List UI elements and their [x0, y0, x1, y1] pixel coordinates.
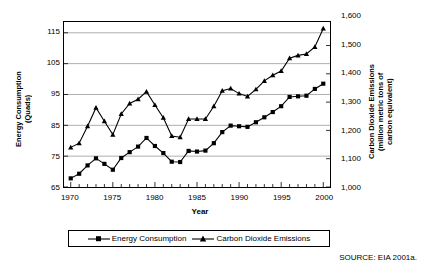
legend-triangle-marker-icon: [192, 234, 214, 244]
chart-legend: Energy ConsumptionCarbon Dioxide Emissio…: [68, 230, 330, 247]
data-point-marker: [312, 44, 317, 49]
y-axis-left-ticklabel: 95: [32, 90, 60, 98]
x-axis-ticklabel: 1985: [182, 193, 212, 202]
legend-item-label: Energy Consumption: [112, 234, 187, 243]
data-point-marker: [136, 145, 140, 149]
data-point-marker: [111, 168, 115, 172]
data-point-marker: [85, 163, 89, 167]
data-point-marker: [144, 89, 149, 94]
data-point-marker: [203, 149, 207, 153]
y-axis-left-ticklabel: 65: [32, 184, 60, 192]
data-point-marker: [102, 162, 106, 166]
y-axis-left-ticklabel: 85: [32, 122, 60, 130]
legend-item[interactable]: Energy Consumption: [88, 234, 187, 244]
data-point-marker: [236, 91, 241, 96]
legend-item-label: Carbon Dioxide Emissions: [216, 234, 310, 243]
plot-svg: [64, 22, 330, 187]
data-point-marker: [77, 140, 82, 145]
legend-item[interactable]: Carbon Dioxide Emissions: [192, 234, 310, 244]
source-note: SOURCE: EIA 2001a.: [0, 253, 417, 262]
y-axis-right-ticklabel: 1,600: [341, 12, 371, 20]
data-point-marker: [77, 172, 81, 176]
data-point-marker: [245, 125, 249, 129]
data-point-marker: [128, 150, 132, 154]
data-point-marker: [94, 156, 98, 160]
data-point-marker: [153, 144, 157, 148]
x-axis-title: Year: [120, 207, 280, 216]
data-point-marker: [288, 95, 292, 99]
series-line-square: [71, 84, 324, 179]
data-point-marker: [313, 87, 317, 91]
data-point-marker: [237, 124, 241, 128]
data-point-marker: [296, 94, 300, 98]
data-point-marker: [170, 160, 174, 164]
data-point-marker: [321, 26, 326, 31]
data-point-marker: [211, 104, 216, 109]
data-point-marker: [119, 156, 123, 160]
data-point-marker: [321, 82, 325, 86]
x-axis-ticklabel: 1995: [267, 193, 297, 202]
y-axis-left-ticklabel: 105: [32, 59, 60, 67]
data-point-marker: [85, 123, 90, 128]
data-point-marker: [254, 120, 258, 124]
x-axis-ticklabel: 1975: [97, 193, 127, 202]
x-axis-ticklabel: 2000: [309, 193, 339, 202]
legend-square-marker-icon: [88, 234, 110, 244]
plot-area: [63, 21, 331, 188]
data-point-marker: [212, 141, 216, 145]
data-point-marker: [304, 94, 308, 98]
x-axis-ticklabel: 1980: [140, 193, 170, 202]
data-point-marker: [178, 160, 182, 164]
data-point-marker: [186, 149, 190, 153]
y-axis-left-ticklabel: 75: [32, 153, 60, 161]
data-point-marker: [220, 130, 224, 134]
x-axis-ticklabel: 1990: [224, 193, 254, 202]
y-axis-left-ticklabels: 65758595105115: [32, 0, 60, 272]
data-point-marker: [195, 149, 199, 153]
data-point-marker: [279, 104, 283, 108]
x-axis-ticklabel: 1970: [55, 193, 85, 202]
data-point-marker: [228, 86, 233, 91]
y-axis-left-ticklabel: 115: [32, 28, 60, 36]
y-axis-right-title: Carbon Dioxide Emissions (million metric…: [367, 24, 401, 199]
data-point-marker: [262, 115, 266, 119]
data-point-marker: [169, 133, 174, 138]
data-point-marker: [271, 110, 275, 114]
data-point-marker: [93, 105, 98, 110]
series-line-triangle: [71, 29, 324, 148]
data-point-marker: [161, 151, 165, 155]
chart-figure: Energy Consumption (Quads) 6575859510511…: [0, 0, 423, 272]
data-point-marker: [144, 136, 148, 140]
data-point-marker: [262, 78, 267, 83]
data-point-marker: [69, 176, 73, 180]
data-point-marker: [229, 124, 233, 128]
